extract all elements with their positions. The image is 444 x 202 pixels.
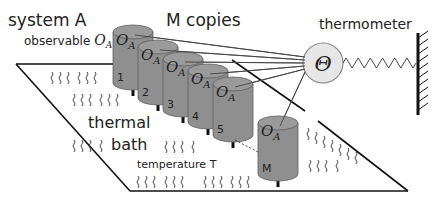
heat-wave (78, 72, 80, 84)
heat-wave (339, 144, 341, 156)
cylinder-M: OAM (258, 116, 298, 187)
heat-wave (173, 176, 175, 188)
heat-wave (153, 176, 155, 188)
heat-wave (336, 160, 338, 172)
heat-wave (347, 148, 349, 160)
heat-wave (67, 72, 69, 84)
heat-wave (100, 94, 102, 106)
heat-wave (137, 176, 139, 188)
heat-wave (325, 160, 327, 172)
copy-index: 4 (192, 110, 199, 123)
heat-wave (192, 141, 194, 153)
heat-wave (59, 72, 61, 84)
spring-icon (343, 58, 416, 68)
heat-wave (81, 140, 83, 152)
heat-wave (204, 176, 206, 188)
thermometer-label: thermometer (319, 16, 412, 32)
bath-edge-right (318, 121, 408, 191)
heat-wave (239, 176, 241, 188)
bath-label-line2: bath (111, 135, 147, 154)
heat-wave (323, 136, 325, 148)
copy-index: M (262, 162, 272, 175)
heat-wave (181, 176, 183, 188)
heat-wave (116, 94, 118, 106)
heat-wave (73, 94, 75, 106)
copy-index: 1 (117, 71, 124, 84)
heat-wave (100, 140, 102, 152)
heat-wave (315, 132, 317, 144)
heat-wave (165, 141, 167, 153)
heat-wave (247, 176, 249, 188)
heat-wave (73, 140, 75, 152)
heat-wave (355, 152, 357, 164)
temperature-label: temperature T (137, 158, 217, 171)
theta-symbol: Θ (314, 52, 331, 76)
heat-wave (89, 94, 91, 106)
heat-wave (231, 176, 233, 188)
heat-wave (94, 72, 96, 84)
copy-index: 3 (167, 98, 174, 111)
heat-wave (165, 176, 167, 188)
heat-wave (181, 141, 183, 153)
copy-index: 2 (142, 86, 149, 99)
heat-wave (331, 140, 333, 152)
heat-wave (108, 94, 110, 106)
heat-wave (212, 176, 214, 188)
copy-index: 5 (217, 123, 224, 136)
observable-label: observable OA (24, 32, 113, 50)
heat-wave (145, 176, 147, 188)
heat-wave (81, 94, 83, 106)
heat-wave (309, 160, 311, 172)
thermal-bath-diagram: OA1OA2OA3OA4OA5OAM Θ system A observable… (0, 0, 444, 202)
heat-wave (86, 72, 88, 84)
bath-label-line1: thermal (88, 113, 150, 132)
thermometer: Θ (303, 31, 428, 115)
system-label: system A (8, 10, 87, 30)
wire-overlay-5 (235, 69, 305, 87)
heat-wave (220, 176, 222, 188)
heat-wave (51, 72, 53, 84)
cylinder-5: OA5 (213, 77, 253, 148)
copies-label: M copies (166, 10, 241, 30)
heat-wave (173, 141, 175, 153)
heat-wave (317, 160, 319, 172)
heat-wave (307, 128, 309, 140)
